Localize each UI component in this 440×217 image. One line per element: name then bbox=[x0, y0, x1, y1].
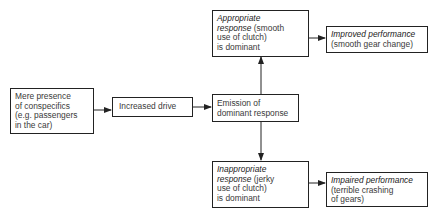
node-appropriate: Appropriate response (smooth use of clut… bbox=[212, 10, 309, 57]
node-presence: Mere presence of conspecifics (e.g. pass… bbox=[10, 88, 94, 134]
inappropriate-italic2: response bbox=[217, 174, 251, 184]
inappropriate-line4: is dominant bbox=[217, 194, 304, 204]
appropriate-italic2: response bbox=[217, 23, 251, 33]
impaired-line3: of gears) bbox=[331, 195, 423, 205]
inappropriate-italic1: Inappropriate bbox=[217, 164, 266, 174]
improved-italic1: Improved performance bbox=[331, 29, 415, 39]
impaired-italic1: Impaired performance bbox=[331, 175, 413, 185]
appropriate-rest2: (smooth bbox=[251, 23, 284, 33]
appropriate-italic1: Appropriate bbox=[217, 13, 260, 23]
node-impaired: Impaired performance (terrible crashing … bbox=[326, 172, 428, 207]
inappropriate-rest2: (jerky bbox=[251, 174, 274, 184]
drive-label: Increased drive bbox=[119, 102, 188, 112]
node-drive: Increased drive bbox=[112, 97, 193, 117]
improved-line2: (smooth gear change) bbox=[331, 40, 423, 50]
node-inappropriate: Inappropriate response (jerky use of clu… bbox=[212, 161, 309, 208]
emission-line2: dominant response bbox=[217, 109, 294, 119]
presence-line4: in the car) bbox=[15, 121, 89, 131]
node-emission: Emission of dominant response bbox=[212, 94, 299, 122]
appropriate-line4: is dominant bbox=[217, 43, 304, 53]
node-improved: Improved performance (smooth gear change… bbox=[326, 26, 428, 53]
